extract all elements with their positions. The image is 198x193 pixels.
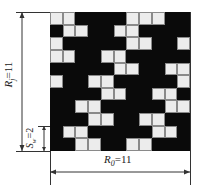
- light-cell: [177, 37, 190, 50]
- dark-cell: [139, 88, 152, 101]
- light-cell: [139, 138, 152, 151]
- light-cell: [50, 75, 63, 88]
- dark-cell: [63, 75, 76, 88]
- light-cell: [101, 50, 114, 63]
- dark-cell: [63, 88, 76, 101]
- dark-cell: [152, 50, 165, 63]
- dark-cell: [114, 113, 127, 126]
- dark-cell: [165, 37, 178, 50]
- light-cell: [101, 75, 114, 88]
- light-cell: [75, 25, 88, 38]
- light-cell: [177, 75, 190, 88]
- light-cell: [114, 88, 127, 101]
- dark-cell: [126, 100, 139, 113]
- dark-cell: [50, 126, 63, 139]
- dark-cell: [114, 37, 127, 50]
- light-cell: [139, 37, 152, 50]
- light-cell: [50, 50, 63, 63]
- dark-cell: [177, 50, 190, 63]
- light-cell: [63, 25, 76, 38]
- light-cell: [126, 37, 139, 50]
- dark-cell: [177, 113, 190, 126]
- dark-cell: [88, 88, 101, 101]
- dark-cell: [139, 75, 152, 88]
- light-cell: [50, 12, 63, 25]
- dark-cell: [114, 12, 127, 25]
- dark-cell: [50, 25, 63, 38]
- light-cell: [177, 100, 190, 113]
- dark-cell: [88, 126, 101, 139]
- dark-cell: [126, 75, 139, 88]
- dark-cell: [101, 138, 114, 151]
- dark-cell: [139, 63, 152, 76]
- dark-cell: [63, 100, 76, 113]
- light-cell: [114, 25, 127, 38]
- dark-cell: [75, 50, 88, 63]
- light-cell: [63, 126, 76, 139]
- rj-label: Rj=11: [2, 55, 17, 95]
- light-cell: [114, 50, 127, 63]
- light-cell: [101, 113, 114, 126]
- dark-cell: [114, 75, 127, 88]
- dark-cell: [63, 138, 76, 151]
- light-cell: [152, 113, 165, 126]
- dark-cell: [75, 75, 88, 88]
- dark-cell: [152, 25, 165, 38]
- light-cell: [63, 12, 76, 25]
- dark-cell: [165, 25, 178, 38]
- light-cell: [126, 138, 139, 151]
- dark-cell: [50, 100, 63, 113]
- dark-cell: [101, 100, 114, 113]
- dark-cell: [165, 50, 178, 63]
- light-cell: [114, 63, 127, 76]
- light-cell: [139, 113, 152, 126]
- dark-cell: [114, 100, 127, 113]
- light-cell: [152, 126, 165, 139]
- dark-cell: [75, 12, 88, 25]
- dark-cell: [75, 37, 88, 50]
- light-cell: [139, 12, 152, 25]
- dark-cell: [101, 63, 114, 76]
- dark-cell: [50, 63, 63, 76]
- light-cell: [165, 126, 178, 139]
- dark-cell: [152, 63, 165, 76]
- dark-cell: [88, 63, 101, 76]
- dark-cell: [139, 25, 152, 38]
- dark-cell: [88, 37, 101, 50]
- dark-cell: [101, 12, 114, 25]
- light-cell: [126, 25, 139, 38]
- dark-cell: [88, 50, 101, 63]
- dark-cell: [75, 88, 88, 101]
- light-cell: [152, 12, 165, 25]
- dark-cell: [177, 25, 190, 38]
- dark-cell: [50, 113, 63, 126]
- light-cell: [88, 75, 101, 88]
- dark-cell: [152, 75, 165, 88]
- dark-cell: [139, 50, 152, 63]
- dark-cell: [75, 63, 88, 76]
- dark-cell: [114, 126, 127, 139]
- dark-cell: [63, 37, 76, 50]
- light-cell: [88, 113, 101, 126]
- light-cell: [177, 63, 190, 76]
- light-cell: [101, 88, 114, 101]
- weave-grid: [50, 12, 190, 151]
- dark-cell: [165, 138, 178, 151]
- dark-cell: [152, 37, 165, 50]
- light-cell: [88, 100, 101, 113]
- dark-cell: [177, 138, 190, 151]
- light-cell: [75, 138, 88, 151]
- dark-cell: [165, 75, 178, 88]
- dark-cell: [126, 50, 139, 63]
- light-cell: [126, 63, 139, 76]
- sw-label: Sw=2: [24, 120, 38, 156]
- dark-cell: [50, 88, 63, 101]
- dark-cell: [126, 113, 139, 126]
- light-cell: [75, 126, 88, 139]
- light-cell: [63, 50, 76, 63]
- dark-cell: [152, 138, 165, 151]
- dark-cell: [63, 113, 76, 126]
- dark-cell: [88, 12, 101, 25]
- dark-cell: [63, 63, 76, 76]
- light-cell: [50, 37, 63, 50]
